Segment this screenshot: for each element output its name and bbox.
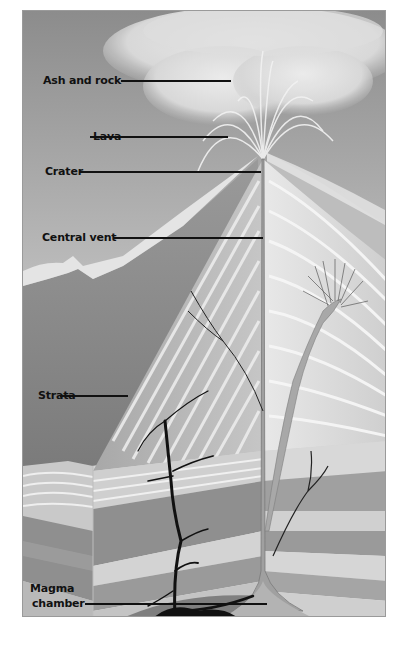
label-crater: Crater (45, 166, 83, 178)
label-ash-and-rock: Ash and rock (43, 75, 121, 87)
volcano-diagram: Ash and rock Lava Crater Central vent St… (22, 10, 386, 617)
label-magma-chamber: chamber (32, 598, 85, 610)
label-strata: Strata (38, 390, 76, 402)
volcano-illustration (23, 11, 386, 617)
label-central-vent: Central vent (42, 232, 116, 244)
label-magma: Magma (30, 583, 74, 595)
label-lava: Lava (93, 131, 121, 143)
